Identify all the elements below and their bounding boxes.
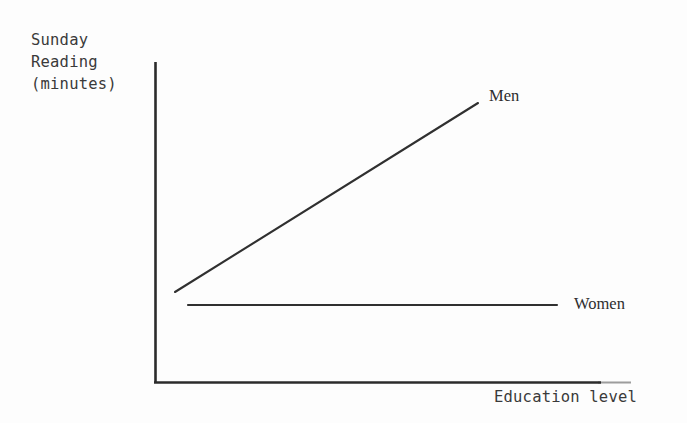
men-series-line	[175, 103, 478, 292]
x-axis-title: Education level	[494, 386, 637, 408]
axis-lines	[154, 62, 631, 383]
chart-figure: Sunday Reading (minutes) Men Women Educa…	[0, 0, 687, 423]
men-series-label: Men	[489, 86, 519, 106]
data-lines	[175, 103, 557, 305]
plot-area	[0, 0, 687, 423]
women-series-label: Women	[574, 294, 625, 314]
